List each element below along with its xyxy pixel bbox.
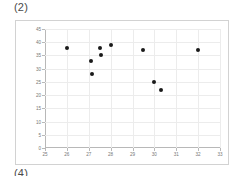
data-point — [65, 46, 69, 50]
gridline-vertical — [154, 29, 155, 148]
x-tick-label: 33 — [217, 152, 222, 157]
data-point — [196, 48, 200, 52]
x-tick-mark — [67, 148, 68, 151]
chart-frame: 051015202530354045 252627282930313233 — [15, 20, 229, 165]
x-tick-label: 26 — [64, 152, 69, 157]
gridline-vertical — [89, 29, 90, 148]
y-axis-line — [45, 29, 46, 148]
x-tick-mark — [198, 148, 199, 151]
x-tick-label: 32 — [196, 152, 201, 157]
gridline-vertical — [220, 29, 221, 148]
x-tick-label: 31 — [174, 152, 179, 157]
y-tick-mark — [42, 108, 45, 109]
gridline-vertical — [176, 29, 177, 148]
data-point — [89, 59, 93, 63]
data-point — [90, 72, 94, 76]
y-tick-label: 25 — [36, 79, 41, 84]
next-figure-label: (4) — [14, 167, 28, 176]
x-tick-label: 28 — [108, 152, 113, 157]
data-point — [99, 53, 103, 57]
x-tick-mark — [133, 148, 134, 151]
y-tick-label: 0 — [38, 146, 41, 151]
x-tick-mark — [154, 148, 155, 151]
x-tick-mark — [45, 148, 46, 151]
x-tick-mark — [176, 148, 177, 151]
gridline-vertical — [198, 29, 199, 148]
x-tick-label: 30 — [152, 152, 157, 157]
y-tick-label: 20 — [36, 93, 41, 98]
y-tick-label: 15 — [36, 106, 41, 111]
y-tick-mark — [42, 42, 45, 43]
y-tick-mark — [42, 122, 45, 123]
y-tick-label: 5 — [38, 132, 41, 137]
y-tick-label: 40 — [36, 40, 41, 45]
y-tick-label: 45 — [36, 27, 41, 32]
y-tick-mark — [42, 135, 45, 136]
figure-label: (2) — [14, 1, 28, 14]
x-tick-label: 29 — [130, 152, 135, 157]
y-tick-mark — [42, 82, 45, 83]
y-tick-mark — [42, 95, 45, 96]
gridline-vertical — [133, 29, 134, 148]
data-point — [109, 43, 113, 47]
scatter-plot-area: 051015202530354045 252627282930313233 — [45, 29, 220, 148]
x-tick-mark — [89, 148, 90, 151]
data-point — [152, 80, 156, 84]
y-tick-mark — [42, 69, 45, 70]
y-tick-label: 10 — [36, 119, 41, 124]
data-point — [98, 46, 102, 50]
y-tick-label: 30 — [36, 66, 41, 71]
x-tick-label: 27 — [86, 152, 91, 157]
y-tick-mark — [42, 55, 45, 56]
x-tick-mark — [220, 148, 221, 151]
data-point — [141, 48, 145, 52]
y-tick-mark — [42, 29, 45, 30]
data-point — [159, 88, 163, 92]
y-tick-label: 35 — [36, 53, 41, 58]
x-tick-mark — [111, 148, 112, 151]
x-tick-label: 25 — [42, 152, 47, 157]
